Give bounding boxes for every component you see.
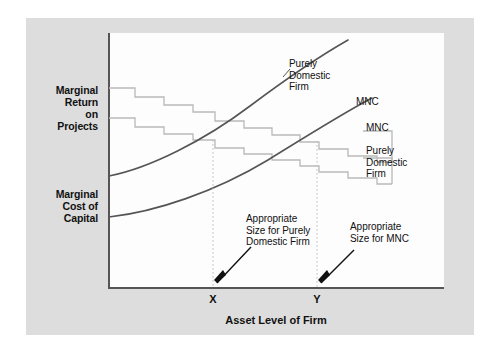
x-axis-tick-label-x: X xyxy=(203,293,223,306)
label-mnc-cost-curve: MNC xyxy=(356,96,406,108)
label-mnc-return-step: MNC xyxy=(366,122,416,134)
annotation-appropriate-size-mnc: Appropriate Size for MNC xyxy=(350,221,424,244)
x-axis-title: Asset Level of Firm xyxy=(108,314,444,327)
chart-figure: Marginal Return on Projects Marginal Cos… xyxy=(0,0,500,357)
annotation-appropriate-size-domestic: Appropriate Size for Purely Domestic Fir… xyxy=(246,213,324,248)
arrow-mnc-size xyxy=(318,250,354,283)
y-axis-title-marginal-cost: Marginal Cost of Capital xyxy=(16,188,98,224)
x-axis-tick-label-y: Y xyxy=(307,293,327,306)
y-axis-title-marginal-return: Marginal Return on Projects xyxy=(16,84,98,132)
label-domestic-cost-curve: Purely Domestic Firm xyxy=(289,58,361,93)
step-series-mnc-return xyxy=(109,88,392,162)
arrow-domestic-size xyxy=(214,247,251,283)
label-domestic-return-step: Purely Domestic Firm xyxy=(366,145,432,180)
curve-series-domestic-cost xyxy=(109,98,372,217)
